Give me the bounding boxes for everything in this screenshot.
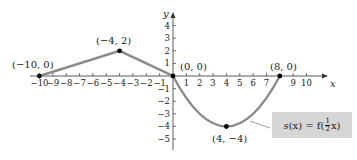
- y-axis-arrow: [171, 12, 176, 18]
- y-tick-label: −2: [157, 96, 170, 106]
- x-tick-label: 5: [237, 78, 242, 88]
- point-neg4-2: [117, 48, 122, 53]
- point-neg10-0: [37, 74, 42, 79]
- label-neg10-0: (−10, 0): [12, 59, 54, 70]
- point-origin: [171, 74, 176, 79]
- y-tick-label: −4: [157, 121, 170, 131]
- legend-box: s(x) = f(12x): [272, 112, 352, 138]
- x-tick-label: 4: [224, 78, 229, 88]
- x-tick-label: −6: [87, 78, 100, 88]
- label-4-neg4: (4, −4): [212, 133, 247, 144]
- x-tick-label: 6: [250, 78, 255, 88]
- y-tick-label: 1: [165, 58, 170, 68]
- y-tick-label: 3: [165, 33, 170, 43]
- x-tick-label: 2: [197, 78, 202, 88]
- x-tick-label: −2: [140, 78, 153, 88]
- y-tick-label: −5: [157, 134, 170, 144]
- x-tick-label: 10: [301, 78, 312, 88]
- x-tick-label: −7: [73, 78, 86, 88]
- x-tick-label: 9: [290, 78, 295, 88]
- legend-end: x): [331, 120, 341, 131]
- x-axis-arrow: [322, 74, 328, 79]
- y-tick-label: −1: [157, 84, 170, 94]
- y-tick-label: −3: [157, 109, 170, 119]
- x-tick-label: −3: [127, 78, 140, 88]
- x-tick-label: 7: [264, 78, 269, 88]
- label-neg4-2: (−4, 2): [96, 35, 131, 46]
- label-origin: (0, 0): [180, 61, 207, 72]
- x-tick-label: 1: [184, 78, 189, 88]
- x-tick-label: −4: [113, 78, 126, 88]
- y-axis-label: y: [162, 8, 169, 19]
- x-tick-label: −5: [100, 78, 113, 88]
- point-4-neg4: [224, 124, 229, 129]
- label-8-0: (8, 0): [270, 61, 297, 72]
- x-tick-label: −8: [60, 78, 73, 88]
- x-tick-label: −9: [47, 78, 60, 88]
- x-axis-label: x: [330, 78, 336, 89]
- point-8-0: [277, 74, 282, 79]
- legend-connector: [250, 121, 270, 128]
- y-tick-label: 2: [165, 46, 170, 56]
- legend-half: 12: [325, 118, 329, 133]
- y-tick-label: 4: [165, 21, 170, 31]
- legend-mid: (x) = f(: [289, 120, 325, 131]
- x-tick-label: 3: [210, 78, 215, 88]
